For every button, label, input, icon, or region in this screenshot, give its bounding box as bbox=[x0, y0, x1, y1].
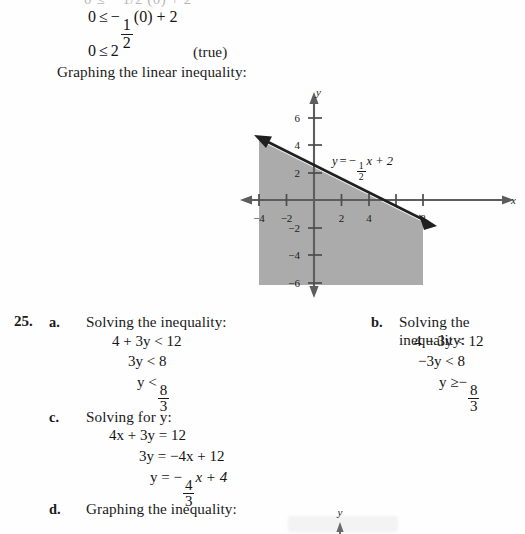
y-tick-label--2: −2 bbox=[288, 222, 300, 234]
boundary-equation-rest: x + 2 bbox=[367, 154, 393, 168]
y-tick-label--4: −4 bbox=[288, 249, 300, 261]
check-line-2-lhs: 0 bbox=[88, 42, 96, 59]
x-tick-label-8: 8 bbox=[420, 212, 426, 224]
part-c-step-3-numerator: 4 bbox=[183, 478, 195, 493]
check-line-2: 0≤2 bbox=[88, 42, 119, 60]
inequality-graph-top: −4 −2 2 4 8 6 4 2 −2 −4 −6 y x y=−12x + … bbox=[232, 86, 522, 296]
part-c-caption: Solving for y: bbox=[86, 408, 172, 426]
check-line-2-relation: ≤ bbox=[96, 42, 111, 59]
part-b-step-2: −3y < 8 bbox=[418, 353, 465, 370]
check-line-1-rest: (0) + 2 bbox=[134, 8, 178, 25]
part-c-step-2: 3y = −4x + 12 bbox=[139, 448, 224, 465]
part-a-caption: Solving the inequality: bbox=[86, 313, 227, 331]
part-b-step-3-sign: − bbox=[458, 374, 466, 390]
graph-top-caption: Graphing the linear inequality: bbox=[57, 63, 247, 81]
part-b-label: b. bbox=[371, 314, 383, 331]
part-c-step-1: 4x + 3y = 12 bbox=[109, 427, 186, 444]
y-tick-label-6: 6 bbox=[295, 112, 301, 124]
part-b-step-3: y ≥−83 bbox=[439, 374, 480, 414]
y-axis-label: y bbox=[315, 86, 321, 98]
y-tick-label--6: −6 bbox=[288, 277, 300, 289]
check-line-1-numerator: 1 bbox=[121, 17, 133, 33]
boundary-equation-numerator: 1 bbox=[357, 161, 366, 171]
part-b-step-3-numerator: 8 bbox=[468, 383, 480, 398]
y-tick-label-4: 4 bbox=[295, 139, 301, 151]
cropped-top-line: 0 ≤ − 1/2 (0) + 2 bbox=[84, 0, 192, 8]
part-a-label: a. bbox=[49, 314, 60, 331]
part-b-step-3-fraction: 83 bbox=[468, 383, 480, 415]
check-line-2-rhs: 2 bbox=[111, 42, 119, 59]
check-line-1-fraction: 12 bbox=[121, 17, 133, 51]
x-axis-left-arrowhead bbox=[240, 195, 252, 204]
boundary-equation-denominator: 2 bbox=[357, 171, 366, 182]
problem-number: 25. bbox=[14, 313, 33, 330]
x-tick-label--4: −4 bbox=[253, 212, 265, 224]
y-axis-top-arrowhead bbox=[336, 522, 343, 532]
x-axis-label: x bbox=[510, 194, 516, 206]
boundary-equation-label: y=−12x + 2 bbox=[332, 154, 393, 182]
cropped-top-line-text: 0 ≤ − 1/2 (0) + 2 bbox=[84, 0, 192, 7]
part-a-step-2: 3y < 8 bbox=[128, 353, 166, 370]
part-d-caption: Graphing the inequality: bbox=[86, 500, 237, 518]
part-c-step-3-tail: x + 4 bbox=[195, 469, 227, 485]
part-a-step-3-numerator: 8 bbox=[158, 383, 170, 398]
check-line-1-relation: ≤ bbox=[96, 8, 111, 25]
boundary-equation-equals: = bbox=[338, 154, 349, 168]
inequality-graph-bottom: y bbox=[300, 500, 420, 534]
part-a-step-3-lhs: y < bbox=[137, 374, 157, 390]
part-d-label: d. bbox=[49, 501, 61, 518]
boundary-equation-sign: − bbox=[349, 154, 356, 168]
check-line-1-lhs: 0 bbox=[88, 8, 96, 25]
check-line-2-note: (true) bbox=[193, 43, 227, 61]
boundary-equation-lhs: y bbox=[332, 154, 338, 168]
part-b-step-3-denominator: 3 bbox=[468, 398, 480, 414]
y-axis-label: y bbox=[337, 506, 343, 518]
textbook-solution-page: 0 ≤ − 1/2 (0) + 2 0≤−12(0) + 2 0≤2 (true… bbox=[0, 0, 525, 534]
boundary-equation-fraction: 12 bbox=[357, 161, 366, 182]
y-axis-bottom-arrowhead bbox=[309, 286, 318, 298]
part-c-step-3-lhs: y = bbox=[150, 469, 173, 485]
x-tick-label-2: 2 bbox=[339, 212, 345, 224]
check-line-1-sign: − bbox=[111, 8, 120, 25]
part-a-step-1: 4 + 3y < 12 bbox=[112, 333, 181, 350]
part-b-step-3-lhs: y ≥ bbox=[439, 374, 458, 390]
check-line-1-denominator: 2 bbox=[121, 34, 133, 51]
y-tick-label-2: 2 bbox=[295, 167, 301, 179]
x-tick-label-4: 4 bbox=[366, 212, 372, 224]
part-b-step-1: 4 − 3y < 12 bbox=[414, 333, 483, 350]
part-c-step-3-sign: − bbox=[173, 469, 181, 485]
part-c-label: c. bbox=[49, 409, 59, 426]
